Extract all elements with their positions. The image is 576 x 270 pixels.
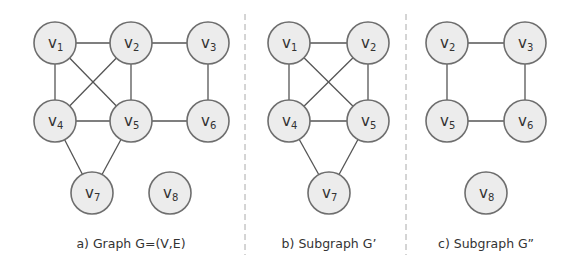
node-v5: v5 xyxy=(110,100,152,142)
node-v5: v5 xyxy=(347,100,389,142)
panel-caption: c) Subgraph G” xyxy=(438,236,534,251)
node-v6: v6 xyxy=(187,100,229,142)
panel-caption: b) Subgraph G’ xyxy=(282,236,377,251)
panel-b: v1v2v4v5v7b) Subgraph G’ xyxy=(268,22,389,251)
nodes: v2v3v5v6v8 xyxy=(426,22,546,214)
graph-panels: v1v2v3v4v5v6v7v8a) Graph G=(V,E)v1v2v4v5… xyxy=(34,22,546,251)
panel-caption: a) Graph G=(V,E) xyxy=(76,236,185,251)
node-v6: v6 xyxy=(504,100,546,142)
node-v8: v8 xyxy=(149,172,191,214)
panel-a: v1v2v3v4v5v6v7v8a) Graph G=(V,E) xyxy=(34,22,229,251)
node-v3: v3 xyxy=(504,22,546,64)
node-v4: v4 xyxy=(268,100,310,142)
node-v4: v4 xyxy=(34,100,76,142)
node-v3: v3 xyxy=(187,22,229,64)
node-v7: v7 xyxy=(71,172,113,214)
node-v1: v1 xyxy=(34,22,76,64)
graph-diagram: v1v2v3v4v5v6v7v8a) Graph G=(V,E)v1v2v4v5… xyxy=(0,0,576,270)
node-v2: v2 xyxy=(110,22,152,64)
node-v1: v1 xyxy=(268,22,310,64)
node-v2: v2 xyxy=(347,22,389,64)
node-v2: v2 xyxy=(426,22,468,64)
panel-c: v2v3v5v6v8c) Subgraph G” xyxy=(426,22,546,251)
nodes: v1v2v4v5v7 xyxy=(268,22,389,214)
node-v8: v8 xyxy=(465,172,507,214)
node-v5: v5 xyxy=(426,100,468,142)
node-v7: v7 xyxy=(308,172,350,214)
nodes: v1v2v3v4v5v6v7v8 xyxy=(34,22,229,214)
